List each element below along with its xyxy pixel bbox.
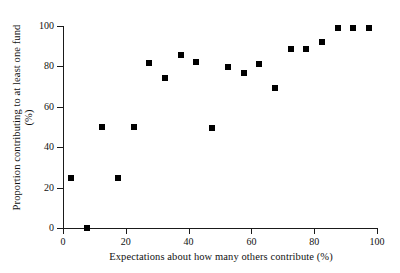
data-point <box>84 225 90 231</box>
x-axis-label: Expectations about how many others contr… <box>63 251 379 262</box>
y-tick-label-40: 40 <box>26 141 54 152</box>
data-point <box>350 25 356 31</box>
y-tick-label-60: 60 <box>26 101 54 112</box>
x-axis-line <box>63 228 378 229</box>
x-tick-40 <box>189 229 190 234</box>
x-tick-60 <box>251 229 252 234</box>
data-point <box>99 124 105 130</box>
data-point <box>241 70 247 76</box>
data-point <box>68 175 74 181</box>
x-tick-label-0: 0 <box>43 236 83 247</box>
data-point <box>319 39 325 45</box>
y-tick-label-80: 80 <box>26 60 54 71</box>
data-point <box>178 52 184 58</box>
x-tick-label-100: 100 <box>357 236 397 247</box>
data-point <box>131 124 137 130</box>
x-tick-80 <box>314 229 315 234</box>
data-point <box>193 59 199 65</box>
x-tick-label-60: 60 <box>231 236 271 247</box>
plot-area <box>63 26 377 228</box>
x-tick-0 <box>63 229 64 234</box>
data-point <box>288 46 294 52</box>
data-point <box>225 64 231 70</box>
data-point <box>335 25 341 31</box>
x-tick-label-20: 20 <box>106 236 146 247</box>
x-tick-100 <box>377 229 378 234</box>
data-point <box>115 175 121 181</box>
x-tick-label-40: 40 <box>169 236 209 247</box>
y-axis-label-container: Proportion contributing to at least one … <box>0 0 46 235</box>
data-point <box>209 125 215 131</box>
y-tick-label-100: 100 <box>26 20 54 31</box>
x-tick-20 <box>126 229 127 234</box>
data-point <box>303 46 309 52</box>
data-point <box>272 85 278 91</box>
scatter-plot-figure: Proportion contributing to at least one … <box>0 0 400 273</box>
data-point <box>256 61 262 67</box>
data-point <box>162 75 168 81</box>
x-tick-label-80: 80 <box>294 236 334 247</box>
data-point <box>366 25 372 31</box>
y-tick-label-20: 20 <box>26 182 54 193</box>
data-point <box>146 60 152 66</box>
y-axis-label-line1: Proportion contributing to at least one … <box>12 25 23 211</box>
y-tick-label-0: 0 <box>26 222 54 233</box>
